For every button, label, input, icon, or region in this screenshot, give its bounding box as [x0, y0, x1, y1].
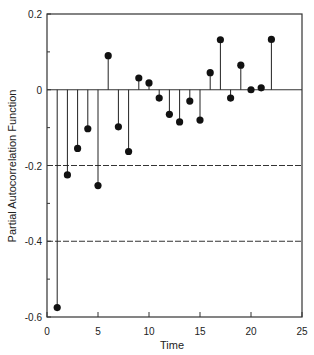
- stem-marker: [135, 74, 142, 81]
- stem-marker: [94, 182, 101, 189]
- stem-marker: [156, 94, 163, 101]
- y-tick-label: 0: [36, 85, 42, 96]
- x-tick-label: 5: [95, 326, 101, 337]
- stem-marker: [186, 98, 193, 105]
- x-axis: 0510152025: [44, 312, 308, 337]
- stem-marker: [176, 118, 183, 125]
- stem-marker: [258, 84, 265, 91]
- y-tick-label: -0.2: [25, 161, 43, 172]
- x-axis-label: Time: [160, 339, 184, 351]
- y-tick-label: -0.4: [25, 236, 43, 247]
- stem-marker: [237, 62, 244, 69]
- stem-marker: [166, 111, 173, 118]
- stem-marker: [196, 116, 203, 123]
- stem-marker: [217, 36, 224, 43]
- stem-marker: [115, 123, 122, 130]
- stem-marker: [84, 125, 91, 132]
- stem-marker: [54, 304, 61, 311]
- stem-marker: [125, 148, 132, 155]
- stem-marker: [247, 86, 254, 93]
- stem-marker: [227, 94, 234, 101]
- pacf-chart: -0.6-0.4-0.200.2 0510152025 Time Partial…: [0, 0, 314, 355]
- x-tick-label: 20: [245, 326, 257, 337]
- stem-marker: [64, 171, 71, 178]
- stem-marker: [74, 145, 81, 152]
- stem-series: [54, 36, 275, 311]
- x-tick-label: 0: [44, 326, 50, 337]
- x-tick-label: 15: [194, 326, 206, 337]
- stem-marker: [105, 52, 112, 59]
- y-tick-label: -0.6: [25, 312, 43, 323]
- y-axis-label: Partial Autocorrelation Function: [6, 90, 18, 243]
- reference-lines: [47, 90, 302, 242]
- stem-marker: [207, 69, 214, 76]
- y-tick-label: 0.2: [28, 9, 42, 20]
- x-tick-label: 25: [296, 326, 308, 337]
- x-tick-label: 10: [143, 326, 155, 337]
- stem-marker: [268, 36, 275, 43]
- stem-marker: [145, 79, 152, 86]
